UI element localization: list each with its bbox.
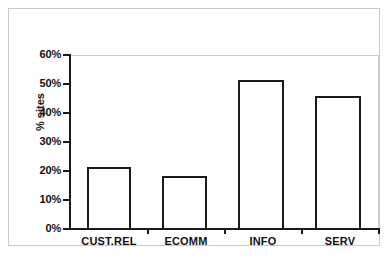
- x-label-cust-rel: CUST.REL: [70, 235, 148, 247]
- x-label-serv: SERV: [301, 235, 379, 247]
- y-axis-title: % sites: [21, 61, 35, 141]
- bar-serv: [315, 96, 361, 230]
- y-tick-label: 30%: [9, 135, 61, 147]
- figure-caption: [36, 253, 358, 264]
- x-tick-mark: [378, 228, 380, 234]
- y-tick-label: 0%: [9, 222, 61, 234]
- x-label-ecomm: ECOMM: [147, 235, 225, 247]
- y-tick-label: 40%: [9, 106, 61, 118]
- bar-info: [238, 80, 284, 230]
- y-tick-mark: [63, 83, 70, 85]
- bar-cust-rel: [87, 167, 131, 230]
- y-tick-mark: [63, 170, 70, 172]
- y-tick-mark: [63, 141, 70, 143]
- x-tick-mark: [224, 228, 226, 234]
- y-tick-label: 20%: [9, 164, 61, 176]
- x-tick-mark: [147, 228, 149, 234]
- chart-screenshot: % sites 60% 50% 40% 30% 20% 10% 0%: [0, 0, 389, 264]
- y-tick-label: 50%: [9, 77, 61, 89]
- y-tick-mark: [63, 112, 70, 114]
- figure-frame: % sites 60% 50% 40% 30% 20% 10% 0%: [8, 8, 380, 246]
- bar-ecomm: [162, 176, 207, 230]
- y-tick-mark: [63, 228, 70, 230]
- x-label-info: INFO: [224, 235, 302, 247]
- y-tick-label: 10%: [9, 193, 61, 205]
- y-tick-mark: [63, 199, 70, 201]
- y-tick-mark: [63, 54, 70, 56]
- y-tick-label: 60%: [9, 48, 61, 60]
- x-tick-mark: [301, 228, 303, 234]
